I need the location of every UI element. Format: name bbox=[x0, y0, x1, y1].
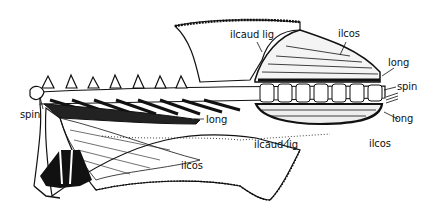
label-long-center: long bbox=[206, 115, 227, 125]
anatomy-drawing bbox=[0, 0, 427, 219]
label-ilcaud-lig-top: ilcaud lig bbox=[230, 30, 274, 40]
long-lower-muscle bbox=[256, 104, 382, 124]
label-ilcos-top: ilcos bbox=[338, 29, 360, 39]
label-spin-right: spin bbox=[397, 82, 417, 92]
label-long-right-bottom: long bbox=[392, 114, 413, 124]
vertebrae-bodies bbox=[260, 84, 382, 102]
label-long-right-top: long bbox=[388, 58, 409, 68]
label-ilcaud-lig-center: ilcaud lig bbox=[254, 140, 298, 150]
label-ilcos-right-bottom: ilcos bbox=[369, 139, 391, 149]
neural-spines bbox=[42, 75, 187, 88]
label-ilcos-center: ilcos bbox=[181, 161, 203, 171]
label-spin-left: spin bbox=[20, 110, 40, 120]
anatomy-figure: ilcaud lig ilcos long spin long ilcos sp… bbox=[0, 0, 427, 219]
